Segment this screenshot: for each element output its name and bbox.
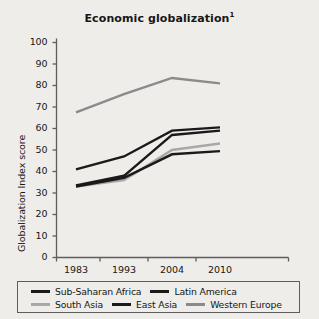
y-tick-label: 50 (22, 144, 48, 155)
y-tick-label: 100 (22, 36, 48, 47)
y-tick-label: 70 (22, 101, 48, 112)
legend-item: South Asia (31, 299, 112, 310)
series-line-western-europe (76, 78, 220, 112)
y-tick-label: 40 (22, 165, 48, 176)
y-tick-label: 80 (22, 79, 48, 90)
y-tick-label: 90 (22, 58, 48, 69)
legend-row-1: Sub-Saharan AfricaLatin America (22, 285, 295, 298)
legend-label: East Asia (136, 299, 177, 310)
legend-swatch (112, 303, 131, 306)
legend-item: East Asia (112, 299, 186, 310)
axis-lines (57, 39, 289, 258)
y-tick-label: 20 (22, 208, 48, 219)
legend-row-2: South AsiaEast AsiaWestern Europe (22, 298, 295, 311)
y-tick-label: 30 (22, 187, 48, 198)
legend-swatch (31, 303, 50, 306)
legend-label: Sub-Saharan Africa (55, 286, 141, 297)
y-tick-label: 10 (22, 230, 48, 241)
legend-item: Western Europe (186, 299, 291, 310)
chart-legend: Sub-Saharan AfricaLatin America South As… (17, 281, 300, 313)
legend-item: Latin America (150, 286, 245, 297)
legend-item: Sub-Saharan Africa (31, 286, 150, 297)
legend-label: Western Europe (210, 299, 282, 310)
x-tick-label: 2010 (200, 264, 240, 275)
series-line-sub-saharan-africa (76, 131, 220, 186)
y-tick-label: 60 (22, 122, 48, 133)
y-tick-label: 0 (22, 251, 48, 262)
legend-swatch (31, 290, 50, 293)
series-lines (76, 78, 220, 187)
legend-swatch (186, 303, 205, 306)
x-tick-label: 1983 (56, 264, 96, 275)
chart-figure: Economic globalization1 Globalization In… (0, 0, 319, 319)
legend-label: South Asia (55, 299, 103, 310)
x-tick-label: 2004 (152, 264, 192, 275)
legend-swatch (150, 290, 169, 293)
legend-label: Latin America (174, 286, 236, 297)
x-tick-label: 1993 (104, 264, 144, 275)
